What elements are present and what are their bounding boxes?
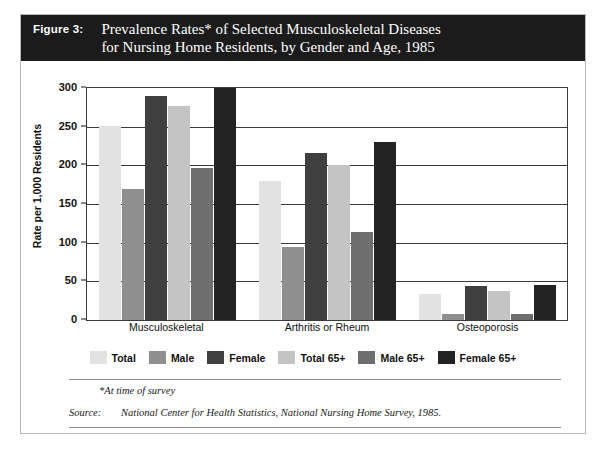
chart-legend: TotalMaleFemaleTotal 65+Male 65+Female 6… xyxy=(21,351,585,364)
y-axis-ticks: 050100150200250300 xyxy=(47,87,81,319)
legend-swatch xyxy=(90,351,107,364)
bar xyxy=(465,286,487,320)
figure-number-label: Figure 3: xyxy=(33,20,83,38)
bar xyxy=(328,165,350,320)
plot-area xyxy=(86,87,568,321)
legend-item: Female 65+ xyxy=(438,351,517,364)
y-axis-title: Rate per 1,000 Residents xyxy=(27,61,47,311)
bar xyxy=(488,291,510,320)
legend-swatch xyxy=(358,351,375,364)
x-axis-labels: MusculoskeletalArthritis or RheumOsteopo… xyxy=(86,321,568,333)
bar xyxy=(99,126,121,320)
figure-title-line-1: Prevalence Rates* of Selected Musculoske… xyxy=(101,20,440,38)
legend-swatch xyxy=(438,351,455,364)
legend-item: Total xyxy=(90,351,136,364)
y-tick-label: 150 xyxy=(59,197,77,209)
footnote-rule-bottom xyxy=(69,427,561,428)
bar xyxy=(259,181,281,320)
legend-label: Total xyxy=(112,352,136,364)
legend-label: Male 65+ xyxy=(380,352,424,364)
figure-container: Figure 3: Prevalence Rates* of Selected … xyxy=(20,14,586,434)
x-axis-label: Arthritis or Rheum xyxy=(247,321,408,333)
legend-item: Male 65+ xyxy=(358,351,424,364)
y-tick-label: 0 xyxy=(71,313,77,325)
bar xyxy=(145,96,167,320)
bar xyxy=(534,285,556,320)
legend-swatch xyxy=(149,351,166,364)
y-tick-label: 250 xyxy=(59,120,77,132)
bar xyxy=(214,88,236,320)
chart-area: Rate per 1,000 Residents 050100150200250… xyxy=(21,61,585,351)
legend-item: Male xyxy=(149,351,194,364)
bar xyxy=(374,142,396,320)
y-tick-label: 50 xyxy=(65,274,77,286)
bar xyxy=(282,247,304,320)
legend-label: Male xyxy=(171,352,194,364)
bar-group xyxy=(247,88,407,320)
bar-group xyxy=(87,88,247,320)
bar xyxy=(122,189,144,320)
footnote-text: *At time of survey xyxy=(99,385,175,396)
figure-title-line-2: for Nursing Home Residents, by Gender an… xyxy=(101,38,440,56)
legend-label: Female 65+ xyxy=(460,352,517,364)
bar xyxy=(511,314,533,320)
bar xyxy=(168,106,190,320)
footnote-rule-top xyxy=(69,379,561,380)
bar xyxy=(442,314,464,320)
y-tick-label: 200 xyxy=(59,158,77,170)
legend-swatch xyxy=(207,351,224,364)
source-label: Source: xyxy=(69,407,121,418)
x-axis-label: Musculoskeletal xyxy=(86,321,247,333)
figure-title: Prevalence Rates* of Selected Musculoske… xyxy=(101,20,440,56)
figure-header-band: Figure 3: Prevalence Rates* of Selected … xyxy=(21,15,585,61)
bar xyxy=(351,232,373,320)
source-text: National Center for Health Statistics, N… xyxy=(121,407,441,418)
bar-groups xyxy=(87,88,567,320)
bar xyxy=(305,153,327,320)
x-axis-label: Osteoporosis xyxy=(407,321,568,333)
bar-group xyxy=(407,88,567,320)
legend-label: Female xyxy=(229,352,265,364)
y-tick-label: 300 xyxy=(59,81,77,93)
legend-item: Total 65+ xyxy=(278,351,345,364)
bar xyxy=(191,168,213,320)
legend-item: Female xyxy=(207,351,265,364)
source-row: Source: National Center for Health Stati… xyxy=(69,407,441,418)
legend-swatch xyxy=(278,351,295,364)
y-tick-label: 100 xyxy=(59,236,77,248)
legend-label: Total 65+ xyxy=(300,352,345,364)
bar xyxy=(419,294,441,320)
y-axis-title-text: Rate per 1,000 Residents xyxy=(31,124,43,248)
